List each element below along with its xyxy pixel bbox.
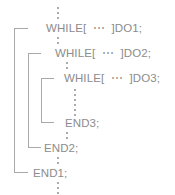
code-line-end2: END2; <box>44 142 78 154</box>
dots-between-do1-do2 <box>57 37 59 47</box>
dots-between-do2-do3 <box>66 62 68 72</box>
nested-while-loop-diagram: WHILE[ ⋯ ]DO1; WHILE[ ⋯ ]DO2; WHILE[ ⋯ ]… <box>0 0 175 195</box>
dots-bottom <box>57 182 59 195</box>
dots-top <box>57 7 59 22</box>
dots-inside-loop3 <box>74 89 76 119</box>
code-line-while2: WHILE[ ⋯ ]DO2; <box>55 47 151 59</box>
bracket-loop-1 <box>14 28 28 173</box>
code-line-end3: END3; <box>65 117 99 129</box>
dots-between-end2-end1 <box>57 157 59 167</box>
dots-between-end3-end2 <box>66 132 68 142</box>
bracket-loop-2 <box>28 53 41 148</box>
code-line-while3: WHILE[ ⋯ ]DO3; <box>64 72 160 84</box>
code-line-while1: WHILE[ ⋯ ]DO1; <box>46 22 142 34</box>
bracket-loop-3 <box>41 78 54 123</box>
code-line-end1: END1; <box>33 167 67 179</box>
